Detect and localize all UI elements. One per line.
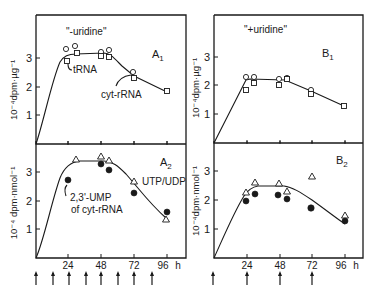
b1-condition: "+uridine" — [244, 24, 287, 35]
a2-ytick-1: 1 — [26, 223, 32, 235]
svg-text:h: h — [353, 260, 359, 271]
panel-a1: 3 2 1 10⁻⁴dpm·µg⁻¹ "-uridine" A1 tRNA cy… — [8, 15, 186, 144]
svg-text:h: h — [175, 260, 181, 271]
a1-ytick-1: 1 — [26, 109, 32, 121]
a1-ytick-3: 3 — [26, 52, 32, 64]
svg-text:24: 24 — [62, 260, 74, 271]
svg-text:72: 72 — [128, 260, 140, 271]
panel-a1-frame — [36, 15, 186, 144]
b1-ylabel: 10⁻⁴dpm·µg⁻¹ — [190, 58, 201, 118]
a1-ytick-2: 2 — [26, 81, 32, 93]
panel-a2: 3 2 1 10⁻⁴ dpm·nmol⁻¹ A2 2,3'-UMP of cyt… — [8, 141, 186, 258]
b2-ytick-1: 1 — [204, 223, 210, 235]
b1-ytick-2: 2 — [204, 79, 210, 91]
svg-text:48: 48 — [95, 260, 107, 271]
svg-text:24: 24 — [241, 260, 253, 271]
b2-panel-label: B2 — [336, 154, 348, 169]
b2-ytick-2: 2 — [204, 194, 210, 206]
a-injection-arrows — [34, 271, 154, 285]
svg-text:96: 96 — [335, 260, 347, 271]
a2-annotation-ump: 2,3'-UMP — [70, 192, 112, 203]
a1-panel-label: A1 — [152, 48, 164, 63]
svg-text:72: 72 — [306, 260, 318, 271]
b1-fit-line — [214, 79, 344, 143]
a2-annotation-utp: UTP/UDP — [142, 176, 186, 187]
a1-condition: "-uridine" — [66, 26, 107, 37]
b1-ytick-3: 3 — [204, 51, 210, 63]
a1-annotation-cyt-rrna: cyt-rRNA — [101, 89, 142, 100]
a-xaxis-labels: 24 48 72 96 h — [62, 260, 180, 271]
a2-ytick-2: 2 — [26, 195, 32, 207]
a2-ylabel: 10⁻⁴ dpm·nmol⁻¹ — [8, 167, 19, 240]
b-xaxis-labels: 24 48 72 96 h — [241, 260, 358, 271]
a1-ylabel: 10⁻⁴dpm·µg⁻¹ — [8, 60, 19, 120]
a2-annotation-ump-line2: of cyt-rRNA — [71, 204, 123, 215]
a2-ytick-3: 3 — [26, 166, 32, 178]
a1-annotation-trna: tRNA — [73, 64, 97, 75]
b1-ytick-1: 1 — [204, 108, 210, 120]
figure-canvas: 3 2 1 10⁻⁴dpm·µg⁻¹ "-uridine" A1 tRNA cy… — [0, 0, 375, 291]
panel-b1: 3 2 1 10⁻⁴dpm·µg⁻¹ "+uridine" B1 — [190, 15, 363, 143]
b-injection-arrows — [211, 271, 314, 285]
svg-text:48: 48 — [274, 260, 286, 271]
b2-ylabel: 10⁻⁴dpm·nmol⁻¹ — [190, 166, 201, 236]
a2-panel-label: A2 — [160, 156, 172, 171]
svg-text:96: 96 — [157, 260, 169, 271]
b1-panel-label: B1 — [322, 47, 334, 62]
panel-b2: 3 2 1 10⁻⁴dpm·nmol⁻¹ B2 — [190, 141, 363, 258]
b2-ytick-3: 3 — [204, 165, 210, 177]
